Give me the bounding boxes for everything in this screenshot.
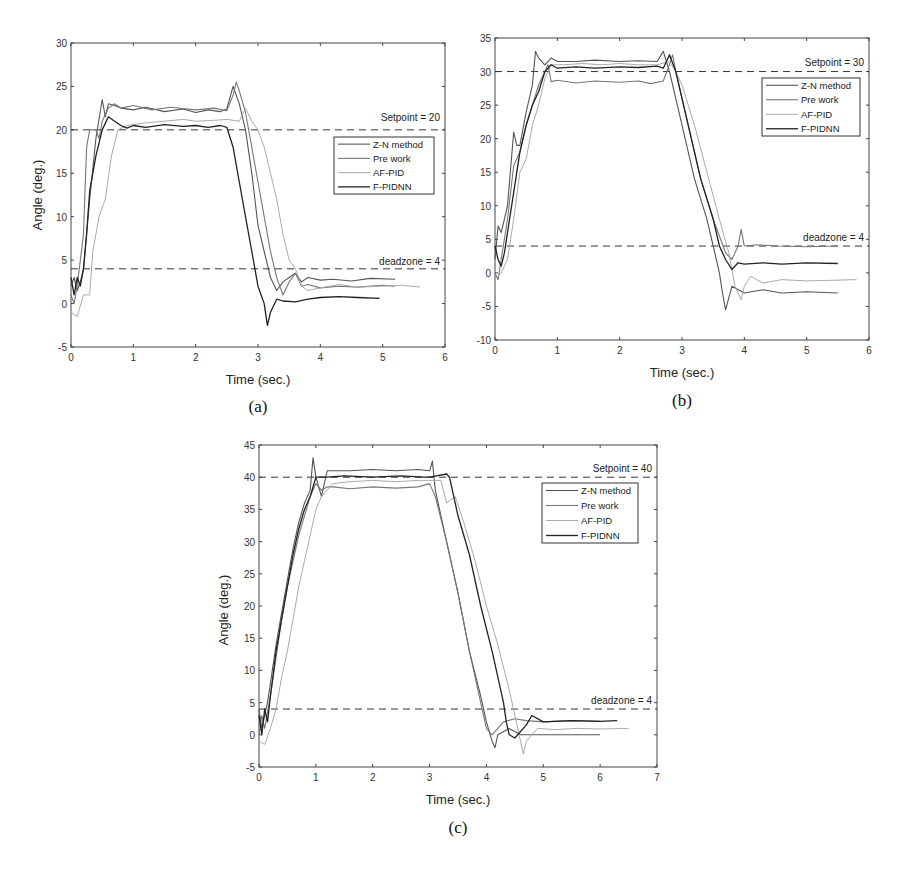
y-tick-label: 0 (61, 299, 67, 310)
y-tick-label: 30 (480, 67, 492, 78)
plot-area-a: 0123456-5051015202530Z-N methodPre workA… (56, 38, 448, 363)
x-tick-label: 0 (492, 345, 498, 356)
x-tick-label: 4 (484, 772, 490, 783)
y-tick-label: 20 (244, 601, 256, 612)
legend-label: F-PIDNN (373, 181, 412, 192)
legend-label: Z-N method (581, 485, 631, 496)
x-tick-label: 6 (442, 352, 448, 363)
panel-b: 0123456-10-505101520253035Z-N methodPre … (477, 33, 873, 410)
legend: Z-N methodPre workAF-PIDF-PIDNN (762, 78, 860, 136)
legend: Z-N methodPre workAF-PIDF-PIDNN (334, 137, 434, 194)
x-tick-label: 4 (742, 345, 748, 356)
x-tick-label: 3 (255, 352, 261, 363)
x-tick-label: 1 (131, 352, 137, 363)
y-tick-label: 0 (485, 268, 491, 279)
x-tick-label: 4 (318, 352, 324, 363)
y-tick-label: 5 (485, 234, 491, 245)
y-tick-label: 20 (56, 125, 68, 136)
panel-a-ylabel: Angle (deg.) (30, 160, 45, 231)
plot-area-b: 0123456-10-505101520253035Z-N methodPre … (477, 33, 873, 356)
legend-label: AF-PID (801, 109, 832, 120)
y-tick-label: 25 (480, 100, 492, 111)
y-tick-label: 35 (480, 33, 492, 44)
y-tick-label: 5 (61, 255, 67, 266)
y-tick-label: -5 (482, 301, 491, 312)
panel-c-deadzone-label: deadzone = 4 (591, 695, 652, 706)
x-tick-label: 3 (679, 345, 685, 356)
panel-c-setpoint-label: Setpoint = 40 (593, 463, 653, 474)
legend: Z-N methodPre workAF-PIDF-PIDNN (542, 483, 638, 543)
panel-a-setpoint-label: Setpoint = 20 (381, 112, 441, 123)
figure: 0123456-5051015202530Z-N methodPre workA… (0, 0, 900, 869)
legend-label: F-PIDNN (801, 123, 840, 134)
x-tick-label: 3 (427, 772, 433, 783)
panel-c: 01234567-5051015202530354045Z-N methodPr… (216, 440, 660, 837)
panel-c-ylabel: Angle (deg.) (216, 575, 231, 646)
x-tick-label: 6 (866, 345, 872, 356)
panel-a-caption: (a) (249, 397, 268, 416)
y-tick-label: 25 (56, 81, 68, 92)
legend-label: Pre work (801, 94, 839, 105)
x-tick-label: 0 (256, 772, 262, 783)
y-tick-label: 10 (480, 201, 492, 212)
x-tick-label: 2 (617, 345, 623, 356)
x-tick-label: 5 (804, 345, 810, 356)
y-tick-label: 35 (244, 504, 256, 515)
panel-a-xlabel: Time (sec.) (226, 372, 291, 387)
panel-a-deadzone-label: deadzone = 4 (379, 256, 440, 267)
y-tick-label: 10 (244, 665, 256, 676)
legend-label: AF-PID (373, 167, 404, 178)
y-tick-label: -5 (246, 762, 255, 773)
legend-label: Pre work (581, 500, 619, 511)
panel-a: 0123456-5051015202530Z-N methodPre workA… (30, 38, 448, 416)
y-tick-label: 15 (480, 167, 492, 178)
legend-label: Z-N method (373, 139, 423, 150)
panel-b-caption: (b) (672, 391, 692, 410)
y-tick-label: 15 (56, 168, 68, 179)
x-tick-label: 0 (68, 352, 74, 363)
panel-c-caption: (c) (449, 818, 468, 837)
panel-b-deadzone-label: deadzone = 4 (803, 232, 864, 243)
y-tick-label: 15 (244, 633, 256, 644)
x-tick-label: 7 (654, 772, 660, 783)
x-tick-label: 1 (555, 345, 561, 356)
y-tick-label: 45 (244, 440, 256, 451)
x-tick-label: 5 (541, 772, 547, 783)
y-tick-label: 30 (56, 38, 68, 49)
legend-label: Pre work (373, 153, 411, 164)
x-tick-label: 2 (370, 772, 376, 783)
y-tick-label: 5 (249, 698, 255, 709)
panel-b-setpoint-label: Setpoint = 30 (805, 57, 865, 68)
axes-box (71, 43, 445, 347)
y-tick-label: 0 (249, 730, 255, 741)
y-tick-label: -10 (477, 335, 492, 346)
x-tick-label: 5 (380, 352, 386, 363)
legend-label: AF-PID (581, 515, 612, 526)
legend-label: Z-N method (801, 80, 851, 91)
legend-label: F-PIDNN (581, 530, 620, 541)
y-tick-label: 30 (244, 537, 256, 548)
x-tick-label: 1 (313, 772, 319, 783)
y-tick-label: -5 (58, 342, 67, 353)
x-tick-label: 2 (193, 352, 199, 363)
y-tick-label: 10 (56, 212, 68, 223)
plot-area-c: 01234567-5051015202530354045Z-N methodPr… (244, 440, 660, 783)
x-tick-label: 6 (597, 772, 603, 783)
y-tick-label: 20 (480, 134, 492, 145)
y-tick-label: 25 (244, 569, 256, 580)
panel-b-xlabel: Time (sec.) (650, 365, 715, 380)
panel-c-xlabel: Time (sec.) (426, 792, 491, 807)
y-tick-label: 40 (244, 472, 256, 483)
